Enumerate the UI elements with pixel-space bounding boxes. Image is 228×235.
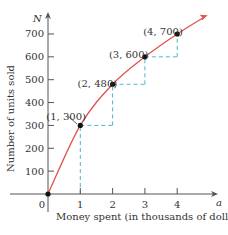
chart: 10020030040050060070001234 (1, 300)(2, 4…: [0, 0, 228, 235]
y-tick-label: 600: [25, 51, 44, 62]
data-points: (1, 300)(2, 480)(3, 600)(4, 700): [45, 26, 183, 197]
curve-arrow-icon: [200, 15, 208, 21]
point-label: (4, 700): [143, 26, 183, 37]
data-point: [45, 191, 50, 196]
axes: [10, 12, 218, 212]
point-label: (3, 600): [109, 49, 149, 60]
point-label: (2, 480): [78, 78, 118, 89]
x-axis-title: Money spent (in thousands of dollars): [56, 211, 228, 222]
y-tick-label: 400: [25, 97, 44, 108]
x-tick-label: 2: [109, 199, 115, 210]
y-axis-title: Number of units sold: [5, 64, 16, 172]
data-point: [78, 123, 83, 128]
curve: [48, 17, 205, 194]
y-tick-label: 300: [25, 120, 44, 131]
y-tick-label: 200: [25, 143, 44, 154]
x-tick-label: 0: [39, 199, 45, 210]
x-tick-label: 3: [142, 199, 148, 210]
x-tick-label: 1: [77, 199, 83, 210]
x-axis-variable: a: [216, 197, 222, 208]
x-tick-label: 4: [174, 199, 180, 210]
y-axis-variable: N: [32, 13, 43, 24]
point-label: (1, 300): [46, 111, 86, 122]
y-tick-label: 500: [25, 74, 44, 85]
y-tick-label: 700: [25, 28, 44, 39]
y-tick-label: 100: [25, 166, 44, 177]
